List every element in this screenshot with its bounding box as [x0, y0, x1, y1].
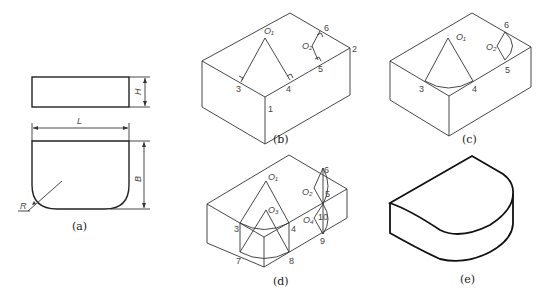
front-view-rect	[32, 77, 129, 107]
label-1: 1	[268, 104, 273, 114]
label-3: 3	[236, 84, 241, 94]
panel-c: O₁ O₂ 3 4 5 6 (c)	[390, 13, 531, 146]
label-o4: O₄	[303, 215, 314, 225]
label-3: 3	[419, 84, 424, 94]
caption-a: (a)	[72, 220, 87, 233]
label-4: 4	[286, 84, 291, 94]
panel-d: O₁ O₃ O₂ O₄ 3 4 5 6 7 8 9 10 (d)	[207, 155, 347, 288]
label-o1: O₁	[264, 26, 274, 36]
dim-l-label: L	[77, 116, 82, 126]
label-2: 2	[352, 44, 357, 54]
panel-e: (e)	[390, 156, 513, 286]
label-o2: O₂	[486, 42, 497, 52]
technical-drawing: H L B R (a) O₁ O₂	[0, 0, 547, 303]
label-o3: O₃	[268, 205, 279, 215]
label-5: 5	[318, 64, 323, 74]
caption-e: (e)	[460, 273, 475, 286]
top-view-shape	[32, 141, 129, 209]
panel-a: H L B R (a)	[18, 77, 150, 233]
label-10: 10	[318, 212, 328, 222]
label-6: 6	[324, 23, 329, 33]
dim-h-label: H	[133, 88, 143, 95]
label-6: 6	[324, 165, 329, 175]
label-8: 8	[289, 256, 294, 266]
label-9: 9	[320, 236, 325, 246]
label-o1: O₁	[456, 32, 466, 42]
label-o1: O₁	[268, 172, 278, 182]
caption-c: (c)	[462, 133, 477, 146]
label-5: 5	[505, 65, 510, 75]
label-4: 4	[472, 84, 477, 94]
label-3: 3	[234, 224, 239, 234]
label-5: 5	[325, 189, 330, 199]
label-o2: O₂	[302, 187, 313, 197]
dim-b-label: B	[133, 176, 143, 182]
panel-b: O₁ O₂ 1 2 3 4 5 6 (b)	[202, 13, 357, 146]
label-7: 7	[236, 256, 241, 266]
label-4: 4	[291, 224, 296, 234]
caption-d: (d)	[273, 275, 289, 288]
label-6: 6	[504, 20, 509, 30]
dim-r-label: R	[20, 201, 27, 211]
label-o2: O₂	[302, 41, 313, 51]
caption-b: (b)	[273, 133, 289, 146]
